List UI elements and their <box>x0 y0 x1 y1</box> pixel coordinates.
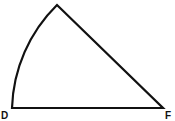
sector-diagram: D F <box>0 0 175 121</box>
vertex-label-d: D <box>1 110 8 121</box>
vertex-label-f: F <box>165 110 171 121</box>
sector-shape <box>12 5 163 108</box>
